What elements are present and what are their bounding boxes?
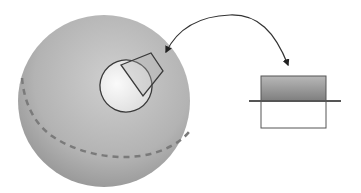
diagram-canvas (0, 0, 361, 193)
box-bottom-half (261, 101, 326, 128)
box-top-half (261, 76, 326, 101)
diagram-svg (0, 0, 361, 193)
curved-double-arrow (166, 15, 288, 65)
